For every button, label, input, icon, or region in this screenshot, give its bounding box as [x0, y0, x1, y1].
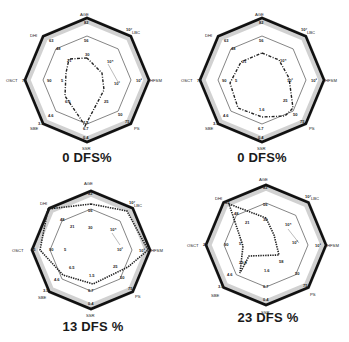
svg-text:10⁷: 10⁷ — [301, 27, 307, 32]
svg-text:3.3: 3.3 — [213, 121, 219, 126]
svg-text:5: 5 — [61, 78, 64, 83]
svg-text:OSCT: OSCT — [12, 248, 24, 253]
svg-text:75: 75 — [197, 78, 202, 83]
svg-text:10³: 10³ — [311, 78, 317, 83]
radar-panel-4: AGE LBC HFSM PS SSR SBE OSCT DHI 825630 … — [175, 171, 349, 342]
svg-text:48: 48 — [234, 211, 239, 216]
svg-text:10⁴: 10⁴ — [107, 59, 113, 64]
svg-text:10²: 10² — [292, 240, 298, 245]
svg-text:50: 50 — [120, 275, 125, 280]
svg-text:3.5: 3.5 — [43, 288, 49, 293]
svg-text:AGE: AGE — [84, 181, 93, 186]
svg-text:AGE: AGE — [80, 12, 89, 17]
svg-text:DHI: DHI — [205, 33, 212, 38]
svg-text:30: 30 — [85, 52, 90, 57]
svg-text:21: 21 — [242, 59, 247, 64]
radar-chart-2: AGE LBC HFSM PS SSR SBE OSCT DHI 8256 10… — [175, 0, 349, 171]
svg-text:AGE: AGE — [259, 177, 268, 182]
svg-text:1.6: 1.6 — [264, 268, 270, 273]
profile-line — [65, 58, 104, 126]
svg-text:56: 56 — [263, 202, 268, 207]
svg-text:63: 63 — [51, 205, 56, 210]
panel-caption: 0 DFS% — [62, 150, 112, 165]
svg-text:3.5: 3.5 — [218, 284, 224, 289]
svg-text:50: 50 — [293, 112, 298, 117]
svg-text:HFSM: HFSM — [150, 78, 162, 83]
svg-text:48: 48 — [231, 46, 236, 51]
svg-text:SBE: SBE — [38, 295, 47, 300]
svg-text:82: 82 — [88, 191, 93, 196]
svg-text:6.7: 6.7 — [88, 288, 94, 293]
svg-text:75: 75 — [300, 119, 305, 124]
svg-text:10⁷: 10⁷ — [305, 194, 311, 199]
svg-text:5: 5 — [64, 247, 67, 252]
svg-text:90: 90 — [47, 78, 52, 83]
svg-text:10⁴: 10⁴ — [285, 222, 291, 227]
outer-band — [200, 18, 324, 142]
svg-text:90: 90 — [49, 247, 54, 252]
svg-text:6.6: 6.6 — [65, 99, 71, 104]
svg-text:4.6: 4.6 — [227, 272, 233, 277]
svg-text:PS: PS — [309, 126, 315, 131]
svg-text:25: 25 — [104, 99, 109, 104]
svg-text:4.6: 4.6 — [54, 277, 60, 282]
svg-text:10⁴: 10⁴ — [110, 227, 116, 232]
svg-text:DHI: DHI — [30, 33, 37, 38]
svg-text:25: 25 — [113, 264, 118, 269]
svg-text:21: 21 — [67, 58, 72, 63]
svg-text:PS: PS — [310, 292, 316, 297]
svg-text:50: 50 — [295, 271, 300, 276]
svg-text:3.3: 3.3 — [38, 121, 44, 126]
radar-chart-1: AGE LBC HFSM PS SSR SBE OSCT DHI 825630 … — [0, 0, 175, 171]
svg-text:56: 56 — [259, 38, 264, 43]
svg-text:HFSM: HFSM — [325, 78, 337, 83]
svg-text:OSCT: OSCT — [187, 243, 199, 248]
svg-text:1.6: 1.6 — [259, 107, 265, 112]
svg-text:PS: PS — [134, 126, 140, 131]
svg-text:SBE: SBE — [30, 126, 39, 131]
svg-text:0.4: 0.4 — [83, 135, 89, 140]
svg-text:56: 56 — [88, 208, 93, 213]
svg-text:58: 58 — [279, 259, 284, 264]
svg-text:82: 82 — [259, 20, 264, 25]
svg-text:0.4: 0.4 — [88, 301, 94, 306]
svg-text:90: 90 — [224, 242, 229, 247]
svg-text:21: 21 — [245, 220, 250, 225]
svg-text:21: 21 — [70, 224, 75, 229]
panel-caption: 23 DFS % — [238, 310, 299, 325]
svg-text:DHI: DHI — [40, 201, 47, 206]
svg-text:4.6: 4.6 — [223, 113, 229, 118]
svg-text:4.6: 4.6 — [48, 113, 54, 118]
svg-text:10³: 10³ — [139, 248, 145, 253]
svg-text:10³: 10³ — [315, 243, 321, 248]
svg-text:30: 30 — [263, 217, 268, 222]
svg-text:PS: PS — [135, 294, 141, 299]
svg-text:29.8: 29.8 — [239, 260, 248, 265]
svg-text:LBC: LBC — [134, 203, 142, 208]
svg-text:LBC: LBC — [311, 196, 319, 201]
svg-text:AGE: AGE — [255, 12, 264, 17]
svg-text:63: 63 — [224, 38, 229, 43]
svg-text:50: 50 — [118, 112, 123, 117]
svg-text:25: 25 — [203, 242, 208, 247]
svg-text:SBE: SBE — [211, 293, 220, 298]
svg-text:82: 82 — [263, 185, 268, 190]
svg-text:5: 5 — [235, 78, 238, 83]
svg-text:90: 90 — [222, 78, 227, 83]
svg-text:6.7: 6.7 — [83, 126, 89, 131]
svg-text:HFSM: HFSM — [327, 243, 339, 248]
panel-caption: 13 DFS % — [63, 319, 124, 334]
svg-text:75: 75 — [31, 247, 36, 252]
svg-text:63: 63 — [225, 200, 230, 205]
svg-text:48: 48 — [56, 46, 61, 51]
svg-text:0.4: 0.4 — [258, 135, 264, 140]
radar-panel-3: AGE LBC HFSM PS SSR SBE OSCT DHI 825630 … — [0, 171, 175, 342]
svg-text:10²: 10² — [117, 247, 123, 252]
svg-text:HFSM: HFSM — [151, 248, 163, 253]
panel-caption: 0 DFS% — [237, 150, 287, 165]
radar-chart-3: AGE LBC HFSM PS SSR SBE OSCT DHI 825630 … — [0, 171, 175, 342]
svg-text:10⁴: 10⁴ — [280, 58, 286, 63]
svg-text:6.7: 6.7 — [263, 284, 269, 289]
svg-text:7.5: 7.5 — [83, 120, 89, 125]
svg-text:0.4: 0.4 — [263, 297, 269, 302]
